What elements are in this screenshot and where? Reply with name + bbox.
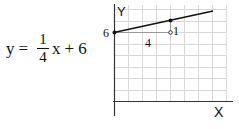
x-axis-label: X (214, 104, 224, 120)
run-label: 4 (145, 36, 151, 50)
graph: Y X 6 4 1 (0, 0, 239, 129)
point-on-line (169, 19, 173, 23)
point-run-end (169, 31, 173, 35)
rise-label: 1 (173, 24, 179, 38)
point-y-intercept (113, 31, 117, 35)
y-axis-label: Y (117, 4, 126, 19)
y-intercept-label: 6 (103, 26, 109, 40)
